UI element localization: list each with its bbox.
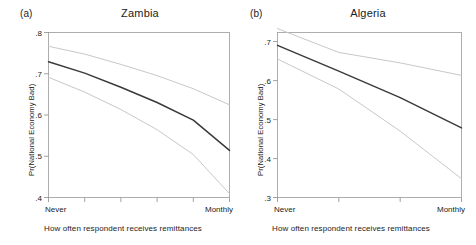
y-tick-label: .8 (35, 29, 42, 38)
plot-area-zambia: .8 .7 .6 .5 .4 Never Monthly (0, 0, 238, 245)
x-tick-label-never: Never (45, 205, 67, 214)
y-tick-label: .5 (264, 116, 271, 125)
x-tick-label-monthly: Monthly (437, 205, 465, 214)
plot-area-algeria: .7 .6 .5 .4 .3 Never Monthly (238, 0, 476, 245)
y-tick-label: .6 (264, 77, 271, 86)
upper-ci-line-zambia (49, 46, 230, 105)
x-tick-marks-zambia (49, 198, 230, 203)
y-tick-label: .6 (35, 111, 42, 120)
y-tick-label: .4 (35, 194, 42, 203)
fit-line-zambia (49, 62, 230, 151)
x-tick-label-never: Never (274, 205, 296, 214)
x-tick-marks-algeria (278, 198, 462, 203)
figure-container: (a) Zambia Pr(National Economy Bad) How … (0, 0, 476, 245)
x-tick-label-monthly: Monthly (205, 205, 233, 214)
y-tick-label: .7 (35, 70, 42, 79)
y-tick-label: .3 (264, 194, 271, 203)
panel-zambia: (a) Zambia Pr(National Economy Bad) How … (0, 0, 238, 245)
y-tick-marks-zambia (44, 33, 49, 198)
y-tick-label: .5 (35, 152, 42, 161)
panel-algeria: (b) Algeria Pr(National Economy Bad) How… (238, 0, 476, 245)
y-tick-marks-algeria (273, 42, 278, 198)
upper-ci-line-algeria (278, 29, 462, 76)
lower-ci-line-algeria (278, 59, 462, 179)
y-tick-label: .7 (264, 38, 271, 47)
plot-frame-zambia (49, 33, 230, 198)
y-tick-label: .4 (264, 155, 271, 164)
